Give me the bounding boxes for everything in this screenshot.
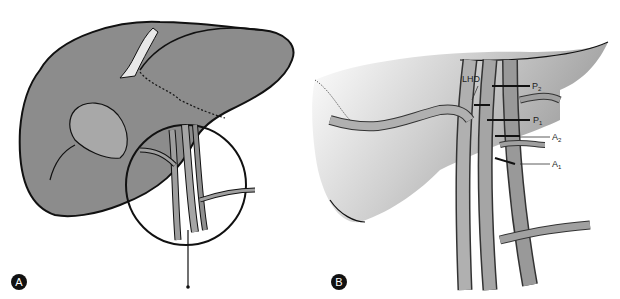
label-a1: A1: [552, 159, 562, 170]
panel-a-badge: A: [11, 274, 27, 290]
panel-b-badge: B: [331, 274, 347, 290]
pointer-dot: [186, 285, 190, 289]
panel-b-hilum: LHD P2 P1 A2 A1: [312, 42, 608, 290]
figure-canvas: LHD P2 P1 A2 A1: [0, 0, 620, 299]
panel-a-liver: [20, 22, 294, 289]
label-lhd: LHD: [462, 74, 481, 84]
label-a2: A2: [552, 132, 562, 143]
